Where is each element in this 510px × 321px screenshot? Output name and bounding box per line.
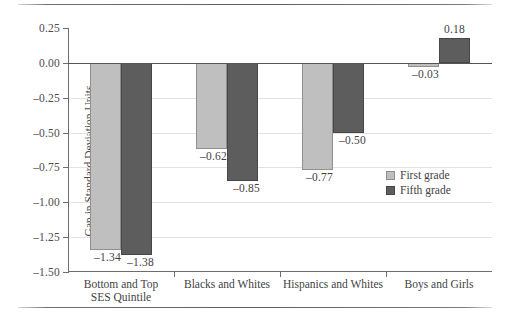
bar [439,38,470,63]
y-axis-tick-label: –1.00 [33,196,60,208]
y-axis-tick [63,167,69,168]
bar-value-label: –0.03 [412,68,439,80]
category-label-line: SES Quintile [68,291,174,304]
bar [196,63,227,149]
category-label-line: Boys and Girls [386,278,492,291]
bar [90,63,121,250]
x-axis-category-label: Blacks and Whites [174,278,280,291]
x-axis-tick [386,271,387,277]
y-axis-tick-label: –0.50 [33,127,60,139]
bar [333,63,364,133]
bottom-horizontal-rule [18,307,492,308]
bar-value-label: –0.50 [339,134,366,146]
figure-chart-gap-standard-deviation-units: Gap in Standard Deviation Units 0.250.00… [0,0,510,321]
y-axis-tick-label: –1.50 [33,266,60,278]
bar-value-label: –0.77 [306,171,333,183]
legend-label-first-grade: First grade [400,169,450,181]
x-axis-tick [280,271,281,277]
x-axis-tick [174,271,175,277]
bar-value-label: –1.34 [94,251,121,263]
x-axis-category-label: Bottom and TopSES Quintile [68,278,174,304]
bar [227,63,258,182]
y-axis-tick [63,98,69,99]
legend: First grade Fifth grade [386,168,451,198]
legend-label-fifth-grade: Fifth grade [400,184,451,196]
category-label-line: Hispanics and Whites [280,278,386,291]
bar-value-label: –0.85 [233,182,260,194]
y-axis-tick [63,237,69,238]
legend-swatch-first-grade-icon [386,171,395,180]
y-axis-tick [63,133,69,134]
y-axis-tick-label: 0.00 [39,57,60,69]
zero-line [68,63,492,64]
bar-value-label: –0.62 [200,150,227,162]
legend-item-fifth-grade: Fifth grade [386,183,451,197]
y-axis-tick-label: –0.75 [33,161,60,173]
y-axis-tick-label: –1.25 [33,231,60,243]
legend-item-first-grade: First grade [386,168,451,182]
bar-value-label: –1.38 [127,256,154,268]
y-axis-line [68,28,69,272]
category-label-line: Blacks and Whites [174,278,280,291]
y-axis-tick [63,272,69,273]
x-axis-category-label: Boys and Girls [386,278,492,291]
legend-swatch-fifth-grade-icon [386,186,395,195]
y-axis-tick-label: 0.25 [39,22,60,34]
top-horizontal-rule [18,4,492,5]
x-axis-category-label: Hispanics and Whites [280,278,386,291]
y-axis-tick-label: –0.25 [33,92,60,104]
y-axis-tick [63,202,69,203]
plot-area: 0.250.00–0.25–0.50–0.75–1.00–1.25–1.50 –… [68,28,492,272]
y-axis-tick [63,28,69,29]
bar-value-label: 0.18 [444,23,465,35]
bar [121,63,152,255]
category-label-line: Bottom and Top [68,278,174,291]
bar [302,63,333,170]
